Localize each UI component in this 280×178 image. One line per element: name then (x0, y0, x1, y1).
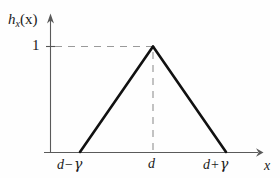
x-tick-label-center: d (148, 157, 155, 171)
function-falling-limb (153, 47, 226, 153)
function-rising-limb (80, 47, 153, 153)
x-tick-right-base: d (203, 157, 210, 172)
figure-canvas: hx(x) 1 d−γ d d+γ x (0, 0, 280, 178)
x-tick-left-term: γ (74, 156, 82, 172)
plot-area (0, 0, 280, 178)
y-axis-label: hx(x) (8, 12, 37, 29)
y-axis-label-arg: (x) (20, 11, 38, 27)
x-tick-label-left: d−γ (57, 157, 82, 172)
y-axis-label-base: h (8, 11, 16, 27)
x-tick-left-base: d (57, 157, 64, 172)
x-tick-right-term: γ (220, 156, 228, 172)
x-tick-label-right: d+γ (203, 157, 228, 172)
x-tick-left-operator: − (64, 157, 74, 172)
x-axis-label: x (264, 159, 270, 173)
x-tick-right-operator: + (210, 157, 220, 172)
y-tick-label-one: 1 (32, 38, 40, 53)
